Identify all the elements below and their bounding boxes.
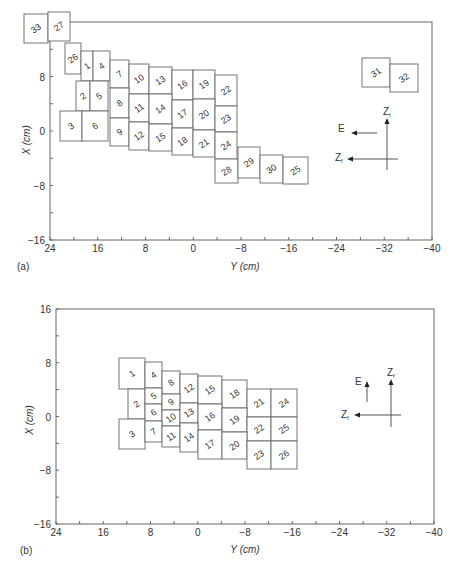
- detector-cell: 16: [198, 404, 222, 430]
- detector-cell: 18: [222, 380, 247, 408]
- detector-cell: 8: [110, 88, 129, 118]
- y-tick-label: −8: [40, 465, 52, 476]
- detector-cell: 18: [172, 128, 193, 155]
- detector-cell: 33: [24, 14, 48, 43]
- e-label: E: [338, 123, 345, 134]
- detector-cell: 32: [390, 64, 418, 92]
- detector-cell: 19: [222, 408, 247, 432]
- detector-cell: 11: [129, 94, 149, 122]
- detector-cell: 6: [82, 111, 108, 141]
- y-tick-label: 8: [39, 72, 45, 83]
- detector-cell: 9: [110, 118, 129, 146]
- panel-label-a: (a): [17, 261, 29, 272]
- detector-cell: 26: [65, 43, 81, 74]
- detector-cell: 24: [271, 389, 297, 417]
- x-tick-label: −32: [376, 243, 393, 254]
- y-tick-label: 16: [40, 304, 52, 315]
- detector-cell: 24: [215, 132, 237, 159]
- x-tick-label: −24: [331, 527, 348, 538]
- detector-cell: 4: [145, 362, 162, 388]
- y-tick-label: −16: [34, 519, 51, 530]
- detector-cell: 16: [172, 70, 193, 100]
- detector-cell: 14: [149, 94, 172, 124]
- detector-cell: 12: [129, 122, 149, 150]
- x-tick-label: 16: [92, 243, 104, 254]
- cells-b: 1481215182124256910131619222537111417202…: [119, 358, 297, 469]
- x-tick-label: 8: [148, 527, 154, 538]
- detector-cell: 11: [162, 426, 180, 447]
- detector-cell: 31: [362, 58, 390, 87]
- detector-cell: 5: [145, 388, 162, 404]
- y-tick-label: 0: [45, 412, 51, 423]
- x-tick-label: −8: [239, 527, 251, 538]
- detector-cell: 3: [60, 111, 82, 141]
- zf-up-label: Zf: [387, 367, 395, 379]
- y-tick-label: 8: [45, 358, 51, 369]
- y-tick-label: 0: [39, 126, 45, 137]
- detector-cell: 5: [90, 81, 108, 111]
- detector-cell: 26: [271, 441, 297, 469]
- x-tick-label: −16: [280, 243, 297, 254]
- detector-cell: 30: [260, 155, 283, 183]
- x-tick-label: −40: [426, 527, 443, 538]
- orientation-legend-b: Zf E Zf: [341, 367, 401, 427]
- detector-cell: 23: [215, 106, 237, 132]
- zf-left-label: Zf: [341, 409, 349, 421]
- detector-cell: 2: [128, 389, 145, 419]
- detector-cell: 23: [247, 441, 271, 469]
- x-axis-title-a: Y (cm): [230, 261, 259, 272]
- detector-cell: 22: [247, 417, 271, 441]
- arrow-up-icon: [389, 379, 394, 385]
- detector-cell: 27: [48, 12, 70, 41]
- detector-cell: 14: [180, 423, 198, 452]
- detector-cell: 3: [119, 419, 145, 449]
- detector-cell: 28: [215, 159, 238, 183]
- detector-cell: 15: [198, 376, 222, 404]
- x-tick-label: 16: [98, 527, 110, 538]
- panel-label-b: (b): [20, 545, 32, 556]
- cells-a: 3327261471013161922258111417202336912151…: [24, 12, 418, 184]
- detector-cell: 9: [162, 394, 180, 410]
- detector-cell: 12: [180, 374, 198, 403]
- x-tick-label: 24: [50, 527, 62, 538]
- y-axis-title-b: X (cm): [24, 405, 35, 435]
- x-tick-label: −24: [328, 243, 345, 254]
- x-tick-label: 0: [195, 527, 201, 538]
- detector-cell: 20: [222, 432, 247, 459]
- x-tick-label: −16: [284, 527, 301, 538]
- detector-cell: 10: [162, 410, 180, 426]
- detector-cell: 8: [162, 371, 180, 394]
- detector-cell: 22: [215, 75, 237, 106]
- detector-cell: 13: [180, 403, 198, 423]
- detector-cell: 4: [93, 51, 110, 81]
- detector-cell: 15: [149, 124, 172, 151]
- arrow-up-icon: [385, 118, 390, 124]
- zf-left-label: Zf: [335, 152, 343, 164]
- e-label: E: [355, 376, 362, 387]
- detector-cell: 7: [110, 60, 129, 88]
- detector-cell: 25: [271, 417, 297, 441]
- y-tick-label: −16: [28, 235, 45, 246]
- panel-b: 241680−8−16−24−32−401680−8−16 1481215182…: [20, 304, 443, 556]
- panel-a: 241680−8−16−24−32−401680−8−16 3327261471…: [17, 12, 441, 272]
- detector-cell: 13: [149, 67, 172, 94]
- detector-cell: 10: [129, 64, 149, 94]
- detector-cell: 6: [145, 404, 162, 421]
- arrow-left-icon: [351, 131, 357, 136]
- detector-cell: 1: [119, 358, 145, 389]
- x-axis-title-b: Y (cm): [230, 544, 259, 555]
- orientation-legend-a: Zf E Zf: [335, 106, 398, 170]
- arrow-left-icon: [347, 157, 353, 162]
- x-tick-label: 24: [44, 243, 56, 254]
- figure: 241680−8−16−24−32−401680−8−16 3327261471…: [0, 0, 455, 568]
- detector-cell: 19: [193, 70, 215, 99]
- x-tick-label: 8: [143, 243, 149, 254]
- x-tick-label: −8: [235, 243, 247, 254]
- detector-cell: 21: [247, 389, 271, 417]
- detector-cell: 29: [238, 147, 260, 178]
- y-axis-title-a: X (cm): [21, 125, 32, 155]
- detector-cell: 25: [283, 157, 308, 184]
- y-tick-label: −8: [34, 181, 46, 192]
- detector-cell: 2: [76, 81, 90, 111]
- arrow-up-icon: [365, 381, 370, 387]
